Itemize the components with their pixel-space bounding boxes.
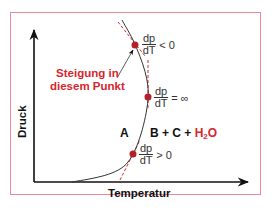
slope-label-infinite: dpdT = ∞ xyxy=(154,86,189,109)
point-negative-slope xyxy=(132,42,139,49)
x-axis-label: Temperatur xyxy=(108,188,170,200)
region-b-label: B + C + H2O xyxy=(150,127,217,141)
phase-curve-plot xyxy=(0,0,272,210)
slope-label-negative: dpdT < 0 xyxy=(142,33,175,56)
region-a-label: A xyxy=(120,127,129,139)
y-axis-label: Druck xyxy=(17,105,29,138)
point-positive-slope xyxy=(130,151,137,158)
h2o-label: H2O xyxy=(195,126,217,140)
slope-annotation: Steigung in diesem Punkt xyxy=(50,67,125,93)
point-infinite-slope xyxy=(145,94,152,101)
slope-label-positive: dpdT > 0 xyxy=(139,143,172,166)
tangent-top xyxy=(118,22,145,56)
